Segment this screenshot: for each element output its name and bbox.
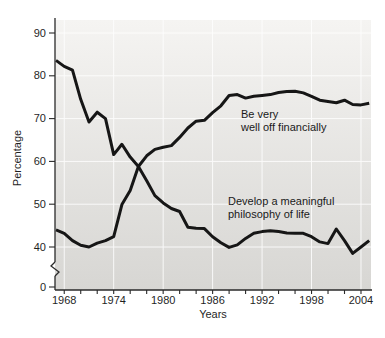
series-label-financial: Be very well off financially — [241, 108, 326, 134]
x-tick-label: 1986 — [200, 294, 224, 306]
series-label-philosophy-line1: Develop a meaningful — [228, 195, 334, 208]
x-tick-label: 1992 — [250, 294, 274, 306]
y-axis-title: Percentage — [11, 130, 23, 186]
series-label-financial-line1: Be very — [241, 108, 326, 121]
y-tick-label-zero: 0 — [40, 281, 46, 293]
y-tick-label: 70 — [34, 112, 46, 124]
x-tick-label: 1998 — [299, 294, 323, 306]
x-tick-label: 1968 — [52, 294, 76, 306]
y-tick-label: 80 — [34, 69, 46, 81]
y-tick-label: 40 — [34, 241, 46, 253]
y-tick-label: 50 — [34, 198, 46, 210]
x-axis-title: Years — [55, 308, 371, 320]
series-label-philosophy-line2: philosophy of life — [228, 208, 334, 221]
x-tick-label: 1980 — [151, 294, 175, 306]
y-tick-label: 90 — [34, 27, 46, 39]
y-tick-label: 60 — [34, 155, 46, 167]
series-label-financial-line2: well off financially — [241, 121, 326, 134]
line-chart-canvas: 9080706050400196819741980198619921998200… — [0, 0, 385, 338]
x-tick-label: 2004 — [349, 294, 373, 306]
x-tick-label: 1974 — [101, 294, 125, 306]
series-label-philosophy: Develop a meaningful philosophy of life — [228, 195, 334, 221]
freshman-life-goals-chart: 9080706050400196819741980198619921998200… — [0, 0, 385, 338]
